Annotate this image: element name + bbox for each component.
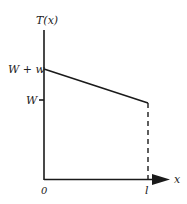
- x-tick-label-0: 0: [41, 185, 48, 196]
- x-axis-label: x: [174, 173, 181, 186]
- tension-line: [44, 69, 148, 103]
- y-tick-label-w: W: [26, 94, 39, 107]
- tension-diagram: T(x) W + w W 0 l x: [0, 0, 187, 204]
- y-axis-label: T(x): [36, 14, 58, 27]
- x-axis-arrow-icon: [152, 174, 170, 185]
- y-tick-label-w-plus-w: W + w: [8, 63, 46, 76]
- x-tick-label-l: l: [145, 184, 149, 197]
